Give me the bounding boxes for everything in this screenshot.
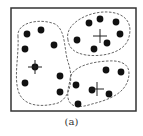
data-point <box>118 69 125 76</box>
data-point <box>75 101 82 108</box>
clustering-figure: (a) <box>0 0 143 136</box>
data-point <box>86 20 93 27</box>
data-point <box>74 37 81 44</box>
data-point <box>113 19 120 26</box>
data-point <box>103 67 110 74</box>
left-cluster <box>16 21 70 105</box>
data-point <box>117 31 124 38</box>
data-point <box>22 46 29 53</box>
data-point <box>57 73 64 80</box>
data-point <box>38 27 45 34</box>
top-right-cluster <box>68 12 130 56</box>
data-point <box>97 16 104 23</box>
data-point <box>24 31 31 38</box>
data-point <box>89 87 96 94</box>
figure-caption: (a) <box>0 116 143 127</box>
data-point <box>57 89 64 96</box>
data-point <box>91 46 98 53</box>
data-point <box>51 42 58 49</box>
bottom-right-cluster <box>68 61 129 108</box>
data-point <box>106 91 113 98</box>
data-point <box>22 80 29 87</box>
data-point <box>104 40 111 47</box>
centroid-cross-icon <box>90 82 104 96</box>
centroid-cross-icon <box>28 60 42 74</box>
data-point <box>73 82 80 89</box>
